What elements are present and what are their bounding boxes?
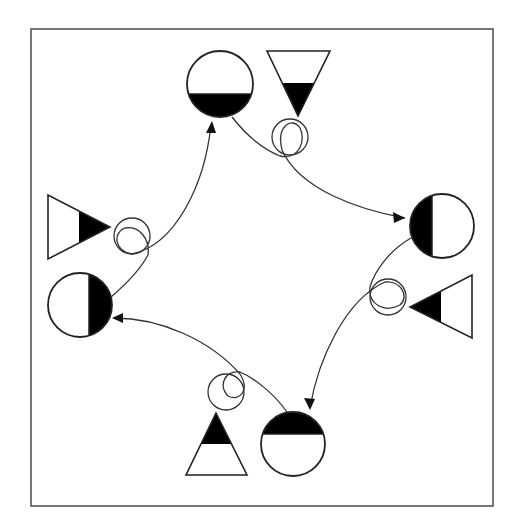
arrow-bottom-to-left <box>112 313 287 412</box>
loop-circle <box>114 218 150 254</box>
loop-circle <box>370 279 406 315</box>
station-left <box>48 195 150 337</box>
arrowhead-icon <box>304 398 315 410</box>
loop-circle <box>208 374 244 410</box>
station-right <box>370 194 474 338</box>
transformation-cycle-diagram <box>0 0 516 528</box>
arrow-path <box>232 117 405 218</box>
arrow-top-to-right <box>232 117 405 223</box>
arrow-right-to-bottom <box>304 238 411 410</box>
arrow-path <box>310 238 411 408</box>
station-bottom <box>186 374 325 476</box>
arrow-path <box>114 318 287 412</box>
arrow-path <box>111 124 211 297</box>
arrowhead-icon <box>393 212 405 223</box>
arrow-left-to-top <box>111 121 216 297</box>
arrowhead-icon <box>206 121 216 133</box>
arrowhead-icon <box>112 313 123 323</box>
